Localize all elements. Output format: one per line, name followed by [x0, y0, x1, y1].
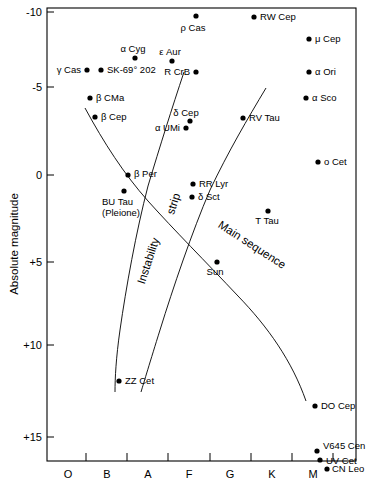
plot-frame-group	[47, 8, 356, 461]
star-dot	[121, 188, 126, 193]
star-marker: α Sco	[303, 92, 336, 103]
star-marker: Sun	[207, 259, 224, 277]
star-label: V645 Cen	[323, 440, 365, 451]
star-label: DO Cep	[321, 400, 355, 411]
star-marker: γ Cas	[57, 64, 90, 75]
x-axis-tick-label-group: OBAFGKM	[64, 468, 318, 480]
instability-strip: Instability	[135, 236, 161, 286]
star-point-group: ρ CasRW Cepμ Cepα Cygε Aurγ CasSK-69° 20…	[57, 11, 366, 474]
star-dot	[187, 118, 192, 123]
star-marker: BU Tau(Pleione)	[102, 188, 140, 218]
y-axis-tick-label-group: -10-50+5+10+15	[23, 6, 42, 443]
star-marker: RR Lyr	[190, 178, 228, 189]
star-label: α UMi	[155, 122, 180, 133]
star-label: μ Cep	[315, 33, 341, 44]
star-label: β CMa	[96, 92, 125, 103]
x-axis-tick-group	[86, 453, 333, 461]
y-axis-tick-label: +15	[23, 431, 42, 443]
star-label: T Tau	[255, 215, 278, 226]
star-label: ρ Cas	[181, 22, 206, 33]
star-dot	[251, 14, 256, 19]
star-marker: SK-69° 202	[98, 64, 155, 75]
star-marker: β Cep	[92, 111, 126, 122]
star-label: β Cep	[101, 111, 127, 122]
star-label: Sun	[207, 266, 224, 277]
star-label: ZZ Cet	[125, 375, 154, 386]
star-label: α Sco	[312, 92, 337, 103]
star-dot	[190, 181, 195, 186]
hr-diagram-figure: -10-50+5+10+15 OBAFGKM InstabilitystripM…	[0, 0, 372, 488]
y-axis-tick-label: -5	[32, 81, 42, 93]
star-label: γ Cas	[57, 64, 82, 75]
star-dot	[84, 67, 89, 72]
star-dot	[306, 69, 311, 74]
star-dot	[315, 159, 320, 164]
x-axis-tick-label: K	[268, 468, 276, 480]
star-dot	[306, 36, 311, 41]
star-dot	[189, 194, 194, 199]
star-dot	[240, 115, 245, 120]
star-marker: α UMi	[155, 122, 189, 133]
star-dot	[303, 95, 308, 100]
star-marker: δ Sct	[189, 191, 220, 202]
star-marker: α Ori	[306, 66, 335, 77]
y-axis-tick-label: +10	[23, 339, 42, 351]
star-label: δ Cep	[173, 107, 198, 118]
x-axis-tick-label: G	[226, 468, 235, 480]
star-dot	[214, 259, 219, 264]
star-dot	[98, 67, 103, 72]
hr-diagram-canvas: -10-50+5+10+15 OBAFGKM InstabilitystripM…	[0, 0, 372, 488]
star-label: RV Tau	[249, 112, 280, 123]
y-axis-tick-group	[47, 12, 54, 437]
x-axis-tick-label: F	[186, 468, 193, 480]
star-dot	[314, 448, 319, 453]
star-dot	[193, 69, 198, 74]
star-dot	[183, 125, 188, 130]
star-dot	[116, 378, 121, 383]
star-label: β Per	[134, 168, 157, 179]
main-sequence: Main sequence	[216, 218, 288, 271]
instability-strip-word2: strip	[164, 192, 182, 216]
star-marker: R CrB	[164, 66, 198, 77]
star-dot	[193, 13, 198, 18]
star-marker: V645 Cen	[314, 440, 365, 454]
star-marker: ρ Cas	[181, 13, 206, 33]
star-dot	[324, 466, 329, 471]
star-marker: β CMa	[87, 92, 124, 103]
star-label: CN Leo	[332, 463, 364, 474]
star-marker: o Cet	[315, 156, 347, 167]
star-label: RW Cep	[260, 11, 296, 22]
star-dot	[169, 58, 174, 63]
star-marker: ZZ Cet	[116, 375, 154, 386]
star-dot	[265, 208, 270, 213]
star-label: α Ori	[315, 66, 336, 77]
star-dot	[92, 114, 97, 119]
star-marker: μ Cep	[306, 33, 340, 44]
star-label: RR Lyr	[199, 178, 228, 189]
star-marker: RW Cep	[251, 11, 295, 22]
x-axis-tick-label: M	[308, 468, 317, 480]
y-axis-title: Absolute magnitude	[8, 193, 20, 295]
star-dot	[87, 95, 92, 100]
star-label: R CrB	[164, 66, 190, 77]
y-axis-tick-label: -10	[26, 6, 42, 18]
x-axis-tick-label: O	[64, 468, 73, 480]
star-label: δ Sct	[198, 191, 220, 202]
x-axis-tick-label: A	[144, 468, 152, 480]
star-marker: α Cyg	[120, 43, 145, 61]
star-marker: ε Aur	[159, 46, 181, 64]
star-dot	[125, 172, 130, 177]
star-label: o Cet	[324, 156, 347, 167]
star-marker: T Tau	[255, 208, 278, 226]
star-dot	[317, 457, 322, 462]
plot-frame	[47, 8, 356, 461]
star-label: SK-69° 202	[107, 64, 156, 75]
star-marker: β Per	[125, 168, 156, 179]
star-label: α Cyg	[120, 43, 145, 54]
star-marker: DO Cep	[312, 400, 355, 411]
y-axis-tick-label: +5	[29, 256, 42, 268]
star-dot	[312, 403, 317, 408]
star-label: ε Aur	[159, 46, 181, 57]
star-label: BU Tau(Pleione)	[102, 196, 140, 218]
y-axis-tick-label: 0	[36, 169, 42, 181]
